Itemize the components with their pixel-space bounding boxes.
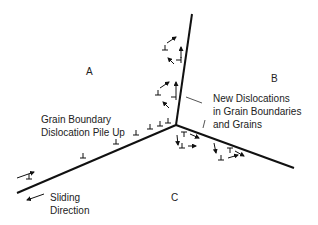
grain-label-b: B	[271, 73, 278, 85]
new-disl-label-line2: in Grain Boundaries	[213, 106, 301, 118]
boundary-ab	[176, 14, 192, 125]
grain-label-a: A	[86, 66, 93, 78]
sliding-arrows	[17, 172, 44, 200]
grain-label-c: C	[171, 192, 178, 204]
pile-up-label-line1: Grain Boundary	[41, 114, 111, 126]
new-disl-label-line1: New Dislocations	[213, 93, 290, 105]
new-dislocations-ab	[155, 37, 181, 108]
leader-lines	[186, 97, 205, 128]
pile-up-label-line2: Dislocation Pile Up	[41, 127, 125, 139]
new-disl-label-line3: and Grains	[213, 119, 262, 131]
sliding-label-line2: Direction	[50, 205, 89, 217]
sliding-label-line1: Sliding	[50, 192, 80, 204]
